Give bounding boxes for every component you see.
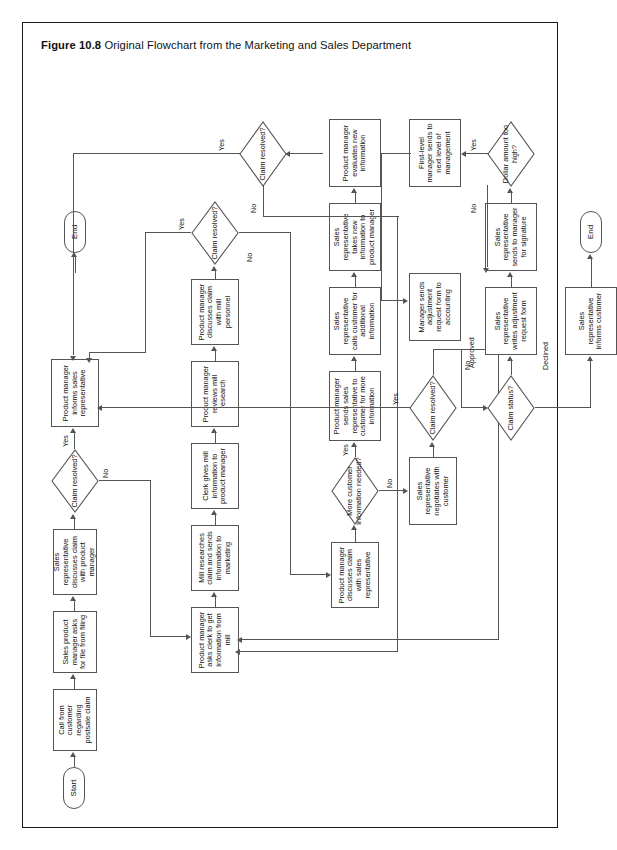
label-claim4-yes: Yes <box>391 393 400 405</box>
node-pm-evaluates-info: Product manager evaluates new informatio… <box>329 119 381 187</box>
node-end-bottom: End <box>580 211 602 253</box>
decision-claim-resolved-1: Claim resolved? <box>51 449 99 513</box>
node-sr-takes-new-info: Sales representative takes new informati… <box>329 203 381 271</box>
node-sr-informs-customer: Sales representative informs customer <box>565 287 617 355</box>
decision-label: Dollar amount too high? <box>487 121 535 187</box>
edge-claim3-yes-up <box>73 153 240 154</box>
decision-claim-resolved-2: Claim resolved? <box>191 201 239 265</box>
arrowhead <box>587 356 593 361</box>
edge-pmsales-to-morecust <box>355 530 356 542</box>
edge-pmclerk-to-millres <box>215 597 216 607</box>
arrowhead <box>70 514 76 519</box>
edge-call-to-askfile <box>74 679 75 689</box>
arrowhead <box>211 510 217 515</box>
edge-morecust-no-down <box>379 490 403 491</box>
edge-claim3-yes-left <box>73 154 74 355</box>
arrowhead <box>429 442 435 447</box>
node-mill-researches: Mill researches claim and sends informat… <box>191 525 239 591</box>
figure-title: Original Flowchart from the Marketing an… <box>104 39 411 51</box>
edge-mgrsends-to-end <box>75 257 76 273</box>
arrowhead <box>587 254 593 259</box>
node-pm-reviews-research: Product manager reviews mill research <box>191 361 239 427</box>
edge-status-approved <box>511 361 512 375</box>
edge-millres-to-clerkgives <box>215 515 216 525</box>
label-claim3-no: No <box>249 204 258 213</box>
arrowhead <box>351 356 357 361</box>
decision-label: Claim resolved? <box>239 121 287 187</box>
arrowhead <box>70 752 76 757</box>
edge-claim4-no-up <box>241 639 499 640</box>
edge-srinforms-to-end <box>591 259 592 287</box>
edge-srdiscuss-to-claim1 <box>74 519 75 529</box>
arrowhead <box>507 188 513 193</box>
decision-more-customer-info: More customer information needed? <box>331 457 379 525</box>
arrowhead <box>483 405 488 411</box>
edge-claim1-no-left <box>150 481 151 637</box>
node-pm-sends-sr: Product manager sends sales representati… <box>329 371 381 441</box>
arrowhead <box>70 356 76 361</box>
decision-label: Claim resolved? <box>409 375 457 441</box>
edge-status-declined-right <box>590 361 591 409</box>
edge-claim2-no-left <box>290 233 291 575</box>
decision-label: More customer information needed? <box>331 457 379 525</box>
arrowhead <box>211 428 217 433</box>
arrowhead <box>483 268 489 273</box>
edge-pmeval-to-claim3 <box>289 153 323 154</box>
figure-caption: Figure 10.8 Original Flowchart from the … <box>41 39 411 51</box>
edge-askfile-to-srdiscuss <box>74 601 75 611</box>
node-pm-discusses-sr: Product manager discusses claim with sal… <box>331 542 379 608</box>
arrowhead <box>507 356 513 361</box>
node-pm-asks-clerk: Product manager asks clerk to get inform… <box>191 607 239 673</box>
edge-srtakes-to-pmeval <box>355 193 356 203</box>
edge-pmreviews-to-pmmill <box>215 351 216 361</box>
node-sr-sends-manager: Sales representative sends to manager fo… <box>485 203 537 271</box>
edge-firstlevel-down <box>381 300 403 301</box>
decision-claim-status: Claim status? <box>487 375 535 441</box>
edge-claim4-no-right <box>433 349 434 375</box>
label-claim3-yes: Yes <box>217 139 226 151</box>
arrowhead <box>351 272 357 277</box>
node-manager-sends-accounting: Manager sends adjustment request form to… <box>409 273 461 341</box>
decision-claim-resolved-3: Claim resolved? <box>239 121 287 187</box>
edge-firstlevel-up <box>381 153 411 154</box>
node-sr-writes-form: Sales representative writes adjustment r… <box>485 287 537 355</box>
node-pm-discusses-mill: Product manager discusses claim with mil… <box>191 279 239 345</box>
node-end-top: End <box>64 211 86 253</box>
edge-claim3-no-left <box>263 185 264 217</box>
edge-pmsends-to-srcalls <box>355 361 356 371</box>
arrowhead <box>507 272 513 277</box>
edge-claim2-yes-left <box>145 233 146 353</box>
arrowhead <box>211 592 217 597</box>
decision-claim-resolved-4: Claim resolved? <box>409 375 457 441</box>
edge-rail-to-status <box>461 350 462 409</box>
arrowhead <box>70 596 76 601</box>
edge-claim3-no-up <box>239 651 398 652</box>
decision-label: Claim status? <box>487 375 535 441</box>
edge-claim3-no-down <box>263 216 399 217</box>
figure-number: Figure 10.8 <box>41 39 101 51</box>
edge-into-status <box>461 407 483 408</box>
edge-srcalls-to-srtakes <box>355 277 356 287</box>
arrowhead <box>351 525 357 530</box>
edge-morecust-yes <box>355 447 356 457</box>
label-claim2-yes: Yes <box>177 218 186 230</box>
edge-claim2-yes-up2 <box>89 352 146 353</box>
arrowhead <box>86 358 92 363</box>
arrowhead <box>211 266 217 271</box>
node-first-level-manager: First-level manager sends to next level … <box>409 119 461 187</box>
edge-dollar-no-left <box>487 185 488 267</box>
node-sr-discusses-claim: Sales representative discusses claim wit… <box>53 529 97 595</box>
arrowhead <box>403 488 408 494</box>
arrowhead <box>351 188 357 193</box>
edge-claim2-yes-up <box>145 232 191 233</box>
arrowhead <box>70 428 76 433</box>
edge-claim3-no-back <box>397 216 398 652</box>
node-ask-file-from-filing: Sales product manager asks for file from… <box>53 611 97 673</box>
arrowhead <box>211 346 217 351</box>
edge-status-declined-down <box>535 407 591 408</box>
label-dollar-yes: Yes <box>469 139 478 151</box>
flowchart-canvas: Start Call from customer regarding posts… <box>49 73 519 813</box>
arrowhead <box>461 151 466 157</box>
edge-claim2-no-down2 <box>290 574 326 575</box>
label-claim1-yes: Yes <box>61 435 70 447</box>
